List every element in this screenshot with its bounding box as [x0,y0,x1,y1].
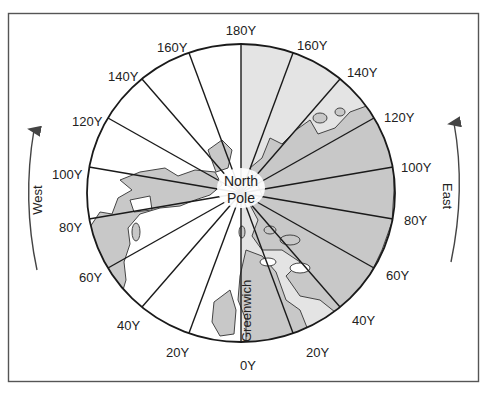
label-120-west: 120Υ [72,114,103,129]
label-20-east: 20Υ [306,345,329,360]
label-20-west: 20Υ [166,345,189,360]
label-180: 180Υ [226,23,257,38]
greenwich-label: Greenwich [239,280,254,342]
label-140-east: 140Υ [347,65,378,80]
label-80-west: 80Υ [59,220,82,235]
label-60-west: 60Υ [79,270,102,285]
label-160-east: 160Υ [297,38,328,53]
label-80-east: 80Υ [404,213,427,228]
west-label: West [30,185,45,215]
label-60-east: 60Υ [386,268,409,283]
label-0: 0Υ [240,358,256,373]
label-100-west: 100Υ [52,167,83,182]
label-120-east: 120Υ [384,110,415,125]
label-140-west: 140Υ [108,69,139,84]
north-pole-label-line2: Pole [227,190,255,206]
label-100-east: 100Υ [401,160,432,175]
label-40-east: 40Υ [352,313,375,328]
label-40-west: 40Υ [117,318,140,333]
north-pole-label-line1: North [224,173,258,189]
north-pole-longitude-diagram: North Pole Greenwich 180Υ 160Υ 140Υ 120Υ… [0,0,486,394]
label-160-west: 160Υ [157,40,188,55]
east-label: East [440,183,455,209]
